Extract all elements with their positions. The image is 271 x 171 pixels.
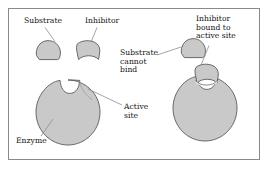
label-inhibitor: Inhibitor (85, 17, 119, 26)
label-substrate-cannot-bind: Substrate cannot bind (120, 49, 158, 75)
enzyme-right (173, 64, 237, 141)
diagram-page: Substrate Inhibitor Substrate cannot bin… (0, 0, 271, 171)
leader-line-substrate (45, 28, 55, 42)
leader-line-substrate-cannot-bind (157, 47, 181, 55)
inhibitor-molecule-bound (195, 64, 218, 83)
label-inhibitor-bound-to-active-site: Inhibitor bound to active site (196, 15, 236, 41)
label-enzyme: Enzyme (16, 137, 47, 146)
leader-line-inhibitor (92, 28, 98, 42)
inhibitor-molecule-left (77, 41, 100, 60)
label-active-site: Active site (124, 103, 148, 120)
substrate-molecule-left (36, 41, 60, 60)
substrate-molecule-right (181, 39, 205, 58)
label-substrate: Substrate (24, 17, 62, 26)
